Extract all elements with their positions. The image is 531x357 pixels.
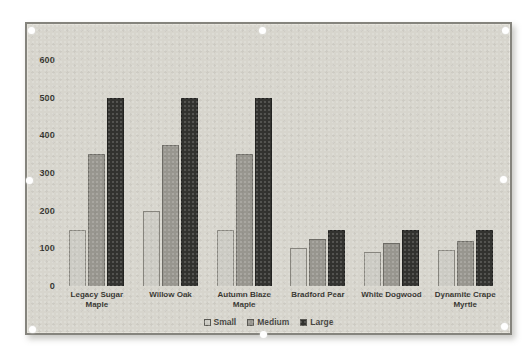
bar-medium: [309, 239, 326, 286]
bar-cluster: [281, 60, 355, 286]
bar-medium: [236, 154, 253, 286]
category-label: Dynamite Crape Myrtle: [428, 290, 502, 310]
legend-label: Large: [310, 317, 333, 327]
bar-small: [217, 230, 234, 287]
legend-item-small: Small: [204, 317, 237, 327]
y-tick-label: 400: [39, 130, 55, 140]
plot-wrap: 0100200300400500600: [27, 60, 502, 286]
resize-handle-top-right[interactable]: [502, 27, 509, 34]
legend-swatch: [247, 319, 254, 326]
category-label: Legacy Sugar Maple: [60, 290, 134, 310]
legend-swatch: [300, 319, 307, 326]
bar-small: [143, 211, 160, 286]
bar-chart: 0100200300400500600 Legacy Sugar MapleWi…: [27, 24, 510, 333]
selected-chart-image[interactable]: 0100200300400500600 Legacy Sugar MapleWi…: [25, 22, 512, 335]
y-axis: 0100200300400500600: [27, 60, 57, 286]
category-label: Willow Oak: [134, 290, 208, 310]
bar-cluster: [207, 60, 281, 286]
bar-small: [69, 230, 86, 287]
bar-medium: [88, 154, 105, 286]
category-label: Autumn Blaze Maple: [207, 290, 281, 310]
y-tick-label: 500: [39, 93, 55, 103]
legend-item-large: Large: [300, 317, 333, 327]
y-tick-label: 100: [39, 243, 55, 253]
bar-cluster: [134, 60, 208, 286]
bar-small: [364, 252, 381, 286]
category-label: Bradford Pear: [281, 290, 355, 310]
legend: SmallMediumLarge: [27, 317, 510, 327]
category-label: White Dogwood: [355, 290, 429, 310]
y-tick-label: 200: [39, 206, 55, 216]
y-tick-label: 600: [39, 55, 55, 65]
bar-medium: [383, 243, 400, 286]
bar-large: [328, 230, 345, 287]
resize-handle-middle-right[interactable]: [500, 176, 507, 183]
bar-large: [402, 230, 419, 287]
resize-handle-bottom-right[interactable]: [501, 323, 508, 330]
legend-label: Small: [214, 317, 237, 327]
bar-large: [181, 98, 198, 286]
bar-large: [476, 230, 493, 287]
resize-handle-bottom-center[interactable]: [260, 331, 267, 338]
category-axis: Legacy Sugar MapleWillow OakAutumn Blaze…: [60, 290, 502, 310]
resize-handle-top-center[interactable]: [259, 27, 266, 34]
bar-medium: [457, 241, 474, 286]
resize-handle-middle-left[interactable]: [26, 177, 33, 184]
bar-small: [290, 248, 307, 286]
bar-large: [255, 98, 272, 286]
bar-cluster: [60, 60, 134, 286]
legend-swatch: [204, 319, 211, 326]
bar-cluster: [428, 60, 502, 286]
bar-cluster: [355, 60, 429, 286]
y-tick-label: 300: [39, 168, 55, 178]
legend-label: Medium: [257, 317, 289, 327]
legend-item-medium: Medium: [247, 317, 289, 327]
bar-large: [107, 98, 124, 286]
plot-area: [60, 60, 502, 286]
resize-handle-top-left[interactable]: [28, 27, 35, 34]
bar-medium: [162, 145, 179, 286]
y-tick-label: 0: [50, 281, 55, 291]
resize-handle-bottom-left[interactable]: [29, 326, 36, 333]
bar-small: [438, 250, 455, 286]
